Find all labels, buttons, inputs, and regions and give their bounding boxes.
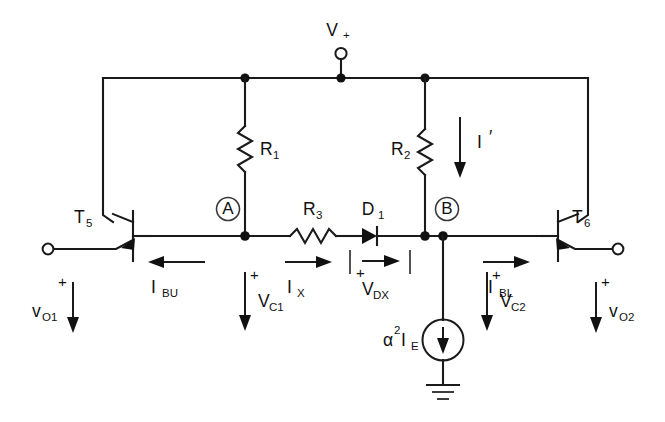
d1-label: D — [362, 199, 375, 219]
vo2-voltage-annotation: + v O2 — [590, 273, 634, 333]
node-a-label: A — [222, 199, 234, 218]
r2-resistor-body — [418, 129, 432, 175]
node-b-label: B — [441, 199, 452, 218]
ix-arrow-head — [316, 256, 332, 268]
t5-base-lead-wire — [54, 240, 133, 249]
ix-current-annotation: I X — [285, 256, 332, 299]
r1-resistor-body — [238, 126, 252, 172]
vo1-voltage-annotation: + v O1 — [32, 273, 79, 333]
t5-collector-lead-wire — [113, 214, 133, 222]
vc1-sublabel: C1 — [269, 301, 284, 313]
left-riser-wire — [103, 78, 113, 222]
vc1-voltage-annotation: + V C1 — [239, 266, 284, 331]
supply-label: V — [326, 20, 338, 40]
left-collector-branch — [103, 78, 113, 222]
t5-transistor: T 5 — [43, 207, 150, 261]
vc1-arrow-head — [239, 315, 251, 331]
r1-sublabel: 1 — [273, 149, 279, 161]
node-marker-a: A — [217, 198, 240, 221]
node-a-junction-dot — [240, 231, 250, 241]
right-collector-branch — [578, 78, 588, 222]
vo1-polarity-label: + — [58, 273, 67, 290]
vo2-arrow-head — [590, 317, 602, 333]
t6-transistor: T 6 — [541, 207, 623, 261]
vc2-arrow-head — [481, 315, 493, 331]
vo1-sublabel: O1 — [42, 311, 57, 323]
supply-terminal-icon — [335, 48, 346, 59]
vc2-polarity-label: + — [492, 266, 501, 283]
t5-sublabel: 5 — [86, 217, 92, 229]
vo2-output-terminal-icon — [613, 244, 624, 255]
d1-diode-triangle — [362, 228, 377, 244]
ix-label: I — [287, 277, 292, 297]
r2-label: R — [391, 139, 404, 159]
current-source-label-i: I — [401, 330, 406, 350]
supply-sublabel: + — [343, 29, 350, 41]
t5-label: T — [74, 207, 85, 227]
circuit-schematic: V + R 1 R 2 I ′ — [0, 0, 665, 422]
vo2-polarity-label: + — [601, 273, 610, 290]
r2-bottom-junction-dot — [420, 231, 430, 241]
r3-resistor-body — [290, 229, 336, 243]
t6-sublabel: 6 — [584, 217, 590, 229]
supply-rail-junction-dot — [336, 73, 345, 82]
r1-label: R — [260, 139, 273, 159]
ix-sublabel: X — [297, 287, 305, 299]
vc2-voltage-annotation: + V C2 — [481, 266, 526, 331]
ibu-label: I — [151, 277, 156, 297]
iprime-sublabel: ′ — [489, 127, 492, 147]
vo1-output-terminal-icon — [43, 244, 54, 255]
vc1-polarity-label: + — [250, 266, 259, 283]
r3-sublabel: 3 — [316, 209, 322, 221]
iprime-arrow-head — [454, 162, 466, 178]
d1-sublabel: 1 — [378, 209, 384, 221]
iprime-label: I — [477, 132, 482, 152]
t5-emitter-arrow-head — [121, 238, 135, 250]
vdx-arrow-head — [384, 255, 400, 267]
supply-rail-group: V + — [103, 20, 588, 83]
t6-emitter-arrow-head — [556, 238, 570, 250]
ibu-sublabel: BU — [162, 287, 178, 299]
vc2-sublabel: C2 — [511, 301, 526, 313]
r3-label: R — [303, 199, 316, 219]
t6-label: T — [572, 207, 583, 227]
vo1-label: v — [32, 301, 41, 321]
vdx-sublabel: DX — [373, 289, 389, 301]
vdx-voltage-annotation: + V DX — [350, 250, 410, 301]
right-riser-wire — [578, 78, 588, 222]
current-source-label-alpha: α — [383, 330, 393, 350]
r1-branch: R 1 — [238, 73, 279, 236]
ibu-current-annotation: I BU — [148, 256, 205, 299]
vo1-arrow-head — [67, 317, 79, 333]
current-source-sublabel-e: E — [411, 340, 419, 352]
ibu-arrow-head — [148, 256, 164, 268]
vo2-label: v — [609, 301, 618, 321]
node-marker-b: B — [436, 198, 459, 221]
circuit-diagram-canvas: V + R 1 R 2 I ′ — [0, 0, 665, 422]
ibl-arrow-head — [514, 256, 530, 268]
current-source-label-exponent: 2 — [394, 324, 400, 336]
r2-sublabel: 2 — [404, 149, 410, 161]
main-signal-line-group: R 3 D 1 — [133, 199, 558, 245]
current-source-arrow-head — [437, 338, 449, 354]
vo2-sublabel: O2 — [619, 311, 634, 323]
